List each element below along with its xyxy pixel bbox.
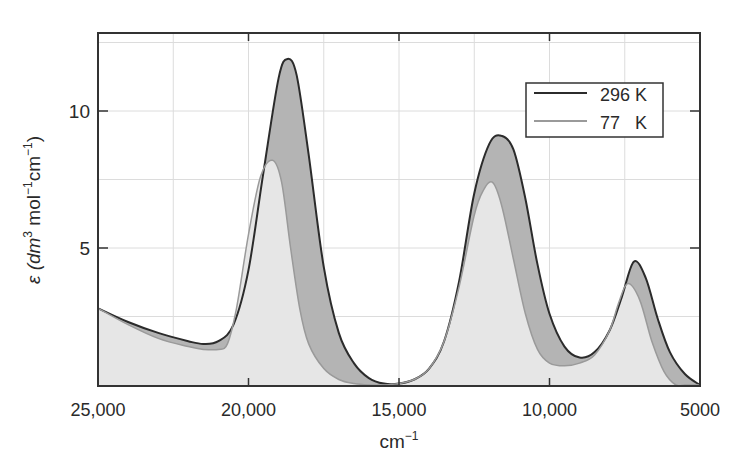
- y-tick-label: 10: [69, 101, 90, 122]
- x-tick-label: 20,000: [221, 400, 276, 420]
- legend-label-296k: 296 K: [600, 85, 647, 105]
- x-tick-label: 15,000: [371, 400, 426, 420]
- legend: 296 K 77 K: [526, 83, 663, 137]
- y-tick-label: 5: [79, 238, 90, 259]
- y-axis-label: ε (dm3 mol−1cm−1): [21, 136, 44, 284]
- x-tick-label: 5000: [680, 400, 720, 420]
- x-axis-label: cm−1: [379, 429, 418, 452]
- chart: 25,00020,00015,00010,0005000 510 cm−1 ε …: [0, 0, 747, 473]
- legend-label-77k: 77 K: [600, 113, 647, 133]
- x-tick-label: 10,000: [522, 400, 577, 420]
- x-tick-label: 25,000: [70, 400, 125, 420]
